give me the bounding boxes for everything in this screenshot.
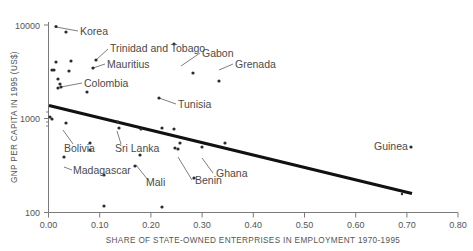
annotation-sri-lanka: Sri Lanka (115, 142, 160, 154)
annotation-guinea: Guinea (374, 140, 408, 152)
data-point (117, 126, 120, 129)
x-tick-label-2: 0.20 (142, 220, 160, 230)
x-tick-label-4: 0.40 (245, 220, 263, 230)
y-tick-label-1000: 1000 (20, 114, 40, 124)
y-tick-label-100: 100 (25, 208, 40, 218)
data-point (56, 77, 59, 80)
x-tick-label-0: 0.00 (40, 220, 58, 230)
x-tick-label-1: 0.10 (91, 220, 109, 230)
data-point (85, 90, 88, 93)
annotation-gabon: Gabon (202, 47, 234, 59)
annotation-grenada: Grenada (235, 58, 276, 70)
leader-gabon (181, 53, 200, 66)
data-point (223, 141, 226, 144)
leader-tunisia (159, 98, 176, 104)
data-point (59, 85, 62, 88)
leader-korea (56, 27, 78, 31)
data-point (58, 82, 61, 85)
leader-colombia (61, 83, 82, 87)
data-point (91, 66, 94, 69)
data-point (139, 127, 142, 130)
annotation-korea: Korea (80, 25, 108, 37)
y-axis-title: GNP PER CAPITA IN 1995 (US$) (10, 51, 19, 183)
data-point (200, 145, 203, 148)
data-point (94, 58, 97, 61)
plot-canvas: 10000 1000 100 0.00 0.10 0.20 0.30 0.40 … (0, 0, 473, 251)
data-point (62, 155, 65, 158)
data-point (54, 60, 57, 63)
data-point (116, 120, 119, 123)
annotation-tunisia: Tunisia (178, 98, 212, 110)
data-point (102, 204, 105, 207)
data-point (160, 205, 163, 208)
scatter-chart: 10000 1000 100 0.00 0.10 0.20 0.30 0.40 … (0, 0, 473, 251)
annotation-trinidad-and-tobago: Trinidad and Tobago (110, 42, 205, 54)
data-point (160, 126, 163, 129)
data-point (64, 121, 67, 124)
data-point (409, 145, 412, 148)
data-point (64, 30, 67, 33)
leader-grenada (219, 64, 233, 70)
x-tick-label-5: 0.50 (296, 220, 314, 230)
annotation-mauritius: Mauritius (107, 58, 150, 70)
x-tick-label-8: 0.80 (449, 220, 467, 230)
leader-mauritius (93, 64, 105, 68)
data-point (401, 193, 403, 195)
data-point (133, 164, 136, 167)
annotation-madagascar: Madagascar (73, 164, 131, 176)
trendline (49, 106, 412, 194)
data-point (173, 146, 176, 149)
x-tick-label-3: 0.30 (193, 220, 211, 230)
data-point (69, 59, 72, 62)
data-point (176, 147, 179, 150)
data-point (178, 141, 181, 144)
y-tick-label-10000: 10000 (15, 21, 40, 31)
annotation-mali: Mali (146, 176, 165, 188)
leader-ghana (202, 158, 213, 173)
data-point (217, 79, 220, 82)
data-point (50, 68, 53, 71)
data-point (157, 96, 160, 99)
data-point (67, 69, 70, 72)
data-point (50, 117, 53, 120)
data-point (172, 127, 175, 130)
data-point (56, 86, 59, 89)
annotation-colombia: Colombia (84, 77, 129, 89)
x-tick-label-7: 0.70 (398, 220, 416, 230)
annotation-bolivia: Bolivia (64, 142, 95, 154)
x-axis-title: SHARE OF STATE-OWNED ENTERPRISES IN EMPL… (106, 236, 400, 245)
data-point (54, 25, 57, 28)
data-point (191, 71, 194, 74)
leader-benin (178, 157, 192, 180)
x-tick-label-6: 0.60 (347, 220, 365, 230)
annotation-ghana: Ghana (216, 167, 248, 179)
leader-madagascar (64, 167, 72, 170)
